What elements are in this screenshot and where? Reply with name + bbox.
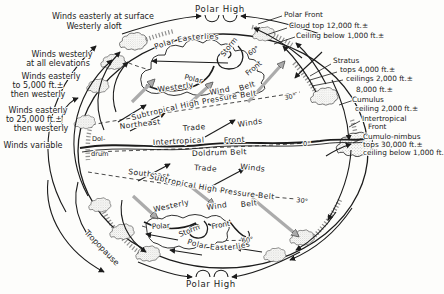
left-annotation-line: then westerly [11, 90, 66, 99]
lat-label-eq: 0° [303, 140, 311, 148]
polar-high-loops-bottom [196, 270, 228, 277]
doldrum-belt-label: Doldrum Belt [192, 147, 247, 158]
left-annotation-line: at all elevations [26, 59, 90, 68]
right-annotation-line: Front [368, 122, 387, 131]
lat-label-60n: 60° [247, 44, 261, 57]
se-trades-label: Winds [240, 162, 266, 174]
westerly-belt-south: Wind [206, 200, 228, 212]
ne-trades-label: Winds [237, 117, 263, 129]
left-annotation-line: to 25,000 ft.± [6, 115, 62, 124]
right-annotation-line: Cloud top 12,000 ft.± [289, 21, 368, 30]
intertropical-front-label: Front [224, 135, 246, 145]
left-annotation-line: to 5,000 ft.± [12, 81, 63, 90]
right-annotation-line: ceiling below 1,000 ft. [363, 148, 444, 157]
left-annotation-line: Winds easterly [8, 106, 67, 115]
westerly-belt-south: Belt [240, 198, 257, 209]
right-annotation-line: tops 4,000 ft.± [340, 65, 395, 74]
right-annotation-line: Polar Front [284, 10, 323, 19]
left-annotation-line: then westerly [14, 124, 69, 133]
se-trades-label: Trade [193, 163, 217, 174]
right-annotation-line: Cumulus [352, 95, 384, 104]
right-annotation-line: ceiling 2,000 ft.± [355, 104, 418, 113]
left-annotation-line: Winds easterly at surface [52, 12, 154, 21]
ne-trades-label: Trade [181, 122, 205, 133]
polar-front-south-label: Polar [152, 221, 171, 231]
left-annotation-line: Winds westerly [32, 50, 93, 59]
ne-trades-label: Northeast [119, 117, 161, 131]
polar-high-loops-top [205, 15, 237, 22]
left-annotation-line: Winds easterly [21, 72, 80, 81]
left-annotation-line: Westerly aloft [66, 22, 121, 31]
right-annotations: Polar Front Cloud top 12,000 ft.± Ceilin… [284, 10, 444, 157]
doldrum-edge-label: drum [91, 150, 109, 158]
lat-30n [85, 92, 300, 126]
polar-high-bottom-label: Polar High [186, 279, 236, 289]
diagram-canvas: Polar High Polar High Tropopause Winds e… [0, 0, 444, 294]
atmospheric-circulation-diagram: Polar High Polar High Tropopause Winds e… [0, 0, 444, 294]
lat-label-30n: 30° [284, 92, 297, 102]
left-annotation-line: Winds variable [3, 141, 62, 150]
doldrum-edge-label: Dol- [92, 135, 106, 143]
right-annotation-line: ceilings 2,000 ft.± [346, 74, 413, 83]
subtropical-high-south-label: Subtropical High Pressure Belt [149, 172, 276, 202]
polar-high-top-label: Polar High [195, 4, 245, 14]
right-annotation-line: Ceiling below 1,000 ft.± [296, 31, 384, 40]
right-annotation-line: 8,000 ft.± [356, 85, 393, 94]
right-annotation-line: Stratus [333, 56, 359, 65]
westerly-belt-south: Westerly [153, 198, 190, 214]
lat-label-30s: 30° [296, 196, 309, 206]
